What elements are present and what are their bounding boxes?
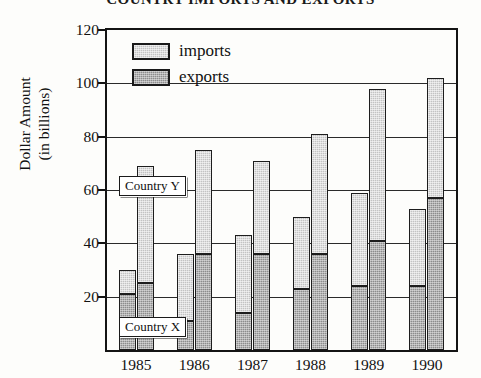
- y-axis-tick-mark: [98, 189, 107, 191]
- legend-item-exports: exports: [132, 64, 231, 90]
- bar-segment-imports: [235, 235, 252, 312]
- y-axis-title: Dollar Amount (in billions): [15, 39, 55, 209]
- x-axis-tick-label: 1987: [237, 356, 268, 374]
- bar-segment-exports: [195, 254, 212, 350]
- legend-item-imports: imports: [132, 38, 231, 64]
- bar-segment-exports: [409, 286, 426, 350]
- bar-segment-imports: [311, 134, 328, 254]
- bar-segment-exports: [253, 254, 270, 350]
- y-axis-tick-mark: [98, 29, 107, 31]
- bar-segment-imports: [293, 217, 310, 289]
- y-axis-tick-mark: [98, 242, 107, 244]
- y-axis-tick-label: 80: [84, 128, 100, 146]
- bar-segment-imports: [253, 161, 270, 254]
- bar-country-x: [293, 217, 310, 350]
- x-axis-tick-label: 1986: [179, 356, 210, 374]
- y-axis-tick-label: 40: [84, 234, 100, 252]
- bar-segment-exports: [369, 241, 386, 350]
- y-axis-tick-label: 60: [84, 181, 100, 199]
- callout-country-x: Country X: [119, 317, 186, 337]
- bar-group: [223, 30, 281, 350]
- x-axis-tick-label: 1988: [295, 356, 326, 374]
- x-axis-tick-label: 1985: [121, 356, 152, 374]
- bar-segment-exports: [235, 313, 252, 350]
- x-axis-tick-label: 1990: [411, 356, 442, 374]
- x-axis-tick-label: 1989: [353, 356, 384, 374]
- legend-label-exports: exports: [179, 67, 229, 87]
- bar-country-x: [119, 270, 136, 350]
- bar-segment-imports: [351, 193, 368, 286]
- bar-segment-exports: [293, 289, 310, 350]
- bar-segment-exports: [311, 254, 328, 350]
- callout-country-y: Country Y: [119, 176, 186, 196]
- y-axis-tick-label: 120: [76, 21, 99, 39]
- bar-segment-imports: [177, 254, 194, 321]
- bar-segment-imports: [369, 89, 386, 241]
- bar-segment-exports: [427, 198, 444, 350]
- legend-swatch-imports-icon: [132, 43, 170, 60]
- bar-segment-imports: [409, 209, 426, 286]
- bar-segment-imports: [427, 78, 444, 198]
- bar-country-y: [195, 150, 212, 350]
- bar-country-x: [235, 235, 252, 350]
- bar-country-y: [311, 134, 328, 350]
- bar-group: [340, 30, 398, 350]
- bar-group: [282, 30, 340, 350]
- legend-swatch-exports-icon: [132, 69, 170, 86]
- bar-country-x: [409, 209, 426, 350]
- bar-country-y: [427, 78, 444, 350]
- bar-country-x: [351, 193, 368, 350]
- y-axis-tick-mark: [98, 296, 107, 298]
- y-axis-tick-mark: [98, 136, 107, 138]
- bar-segment-exports: [351, 286, 368, 350]
- legend-label-imports: imports: [179, 41, 231, 61]
- bar-country-y: [369, 89, 386, 350]
- y-axis-tick-mark: [98, 82, 107, 84]
- bar-chart: COUNTRY IMPORTS AND EXPORTS Dollar Amoun…: [0, 0, 481, 378]
- bar-segment-imports: [195, 150, 212, 254]
- plot-area: 20406080100120 198519861987198819891990 …: [105, 28, 458, 352]
- bar-group: [398, 30, 456, 350]
- y-axis-tick-label: 100: [76, 74, 99, 92]
- y-axis-title-line2: (in billions): [34, 39, 53, 209]
- bar-segment-imports: [119, 270, 136, 294]
- bar-country-y: [253, 161, 270, 350]
- chart-title: COUNTRY IMPORTS AND EXPORTS: [0, 0, 481, 7]
- y-axis-tick-label: 20: [84, 288, 100, 306]
- legend: imports exports: [132, 38, 231, 90]
- y-axis-title-line1: Dollar Amount: [15, 39, 34, 209]
